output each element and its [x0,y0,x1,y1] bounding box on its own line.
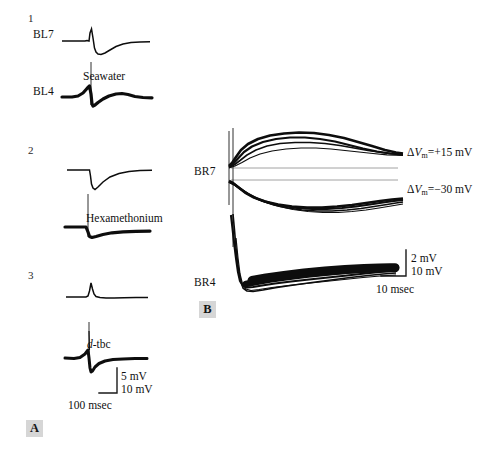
trace-bundle-br7-hyperpolarizing [229,181,403,213]
annotation-delta-vm-hyperpolarizing: ΔVm=−30 mV [407,183,472,197]
condition-label-seawater: Seawater [83,70,125,82]
scale-label-b-voltage-bottom: 10 mV [411,265,443,277]
condition-label-dtbc: d-tbc [87,338,111,350]
condition-label-hexamethonium: Hexamethonium [86,212,163,224]
annotation-value-hyper: −30 mV [434,183,472,195]
group-number-3: 3 [28,269,34,281]
figure-root: A B 1 2 3 BL7 BL4 Seawater Hexamethonium… [0,0,502,460]
scale-label-a-voltage-top: 5 mV [121,370,147,382]
trace-bl4-hexamethonium [65,227,150,238]
annotation-value-depol: +15 mV [434,146,472,158]
group-number-2: 2 [28,144,34,156]
trace-bl7-dtbc [66,283,148,298]
condition-label-dtbc-suffix: -tbc [93,338,111,350]
scale-label-a-time: 100 msec [68,399,112,411]
group-number-1: 1 [28,12,34,24]
trace-bl7-seawater [62,29,150,55]
trace-bundle-br7-depolarizing [229,133,403,169]
scale-label-a-voltage-bottom: 10 mV [121,383,153,395]
scale-label-b-time: 10 msec [376,283,414,295]
panel-label-a: A [26,420,43,437]
panel-a-traces [0,0,502,460]
trace-label-bl4: BL4 [33,85,54,97]
panel-label-b: B [199,301,216,318]
scale-label-b-voltage-top: 2 mV [411,252,437,264]
trace-label-br4: BR4 [194,276,216,288]
trace-bl4-dtbc [65,350,147,372]
trace-label-bl7: BL7 [33,28,54,40]
scale-bar-panel-a [99,368,117,393]
annotation-delta-vm-depolarizing: ΔVm=+15 mV [407,146,472,160]
trace-label-br7: BR7 [194,165,216,177]
trace-bundle-br4 [231,214,397,292]
trace-bl4-seawater [62,86,152,106]
trace-bl7-hexamethonium [67,170,152,190]
